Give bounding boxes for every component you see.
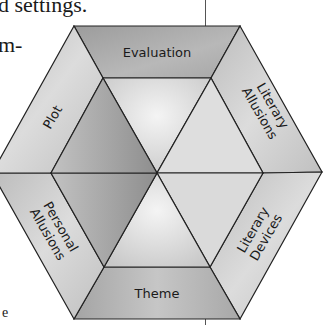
label-theme: Theme xyxy=(134,286,180,301)
hexagon-diagram: Evaluation Literary Allusions Literary D… xyxy=(0,0,332,325)
label-evaluation: Evaluation xyxy=(123,45,192,60)
